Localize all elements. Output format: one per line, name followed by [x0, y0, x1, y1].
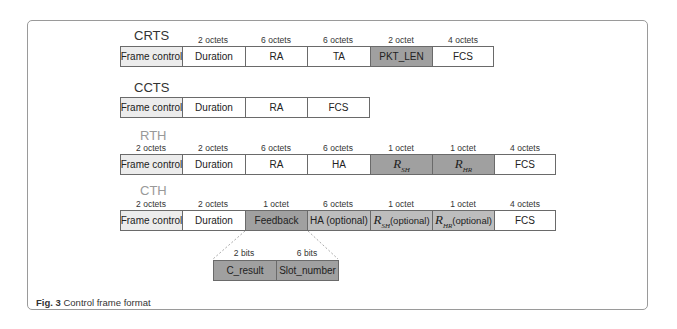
- feedback-size-c-result: 2 bits: [213, 248, 275, 258]
- feedback-field-c-result: C_result: [213, 260, 277, 281]
- feedback-size-slot-number: 6 bits: [276, 248, 338, 258]
- figure-caption-text: Control frame format: [61, 297, 151, 308]
- figure-caption: Fig. 3 Control frame format: [36, 297, 151, 308]
- feedback-field-slot-number: Slot_number: [276, 260, 339, 281]
- figure-label: Fig. 3: [36, 297, 61, 308]
